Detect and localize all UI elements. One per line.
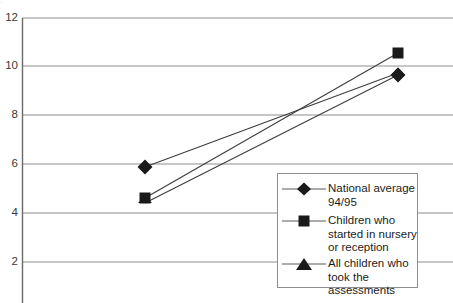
legend-key-triangle (280, 256, 328, 272)
marker-square-right (393, 48, 404, 59)
markers-left (138, 160, 153, 204)
legend-label-all-children: All children who took the assessments (328, 256, 409, 298)
series-line-national-average (145, 73, 398, 167)
y-tick-label-2: 2 (2, 256, 18, 267)
chart-container: . 12 1 (0, 0, 453, 303)
chart-legend: National average 94/95 Children who star… (277, 173, 418, 288)
marker-triangle-right (391, 68, 405, 76)
y-tick-label-8: 8 (2, 109, 18, 120)
marker-square-left (140, 193, 151, 204)
legend-entry-nursery-reception: Children who started in nursery or recep… (278, 213, 419, 255)
legend-key-square (280, 213, 328, 229)
markers-right (391, 48, 406, 83)
y-tick-label-12: 12 (2, 12, 18, 23)
legend-label-nursery-reception: Children who started in nursery or recep… (328, 213, 417, 255)
y-tick-label-6: 6 (2, 158, 18, 169)
legend-entry-all-children: All children who took the assessments (278, 256, 419, 298)
y-tick-label-4: 4 (2, 207, 18, 218)
legend-label-national-average: National average 94/95 (328, 181, 415, 209)
legend-entry-national-average: National average 94/95 (278, 181, 419, 209)
y-tick-label-10: 10 (2, 60, 18, 71)
marker-diamond-left (138, 160, 153, 175)
legend-key-diamond (280, 181, 328, 197)
